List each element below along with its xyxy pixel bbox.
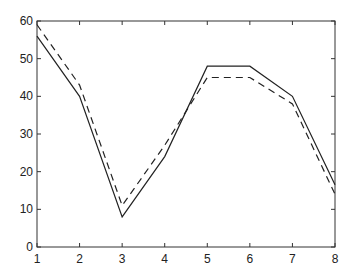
x-tick-label: 8 xyxy=(332,252,339,266)
x-tick-label: 7 xyxy=(289,252,296,266)
y-tick-label: 10 xyxy=(20,202,34,216)
y-tick-label: 0 xyxy=(26,240,33,254)
series-solid-line xyxy=(37,36,335,217)
x-tick-label: 5 xyxy=(204,252,211,266)
series-dashed-line xyxy=(37,25,335,206)
y-tick-label: 50 xyxy=(20,52,34,66)
series-layer xyxy=(37,25,335,217)
y-tick-label: 60 xyxy=(20,14,34,28)
plot-frame xyxy=(37,21,335,247)
x-tick-label: 2 xyxy=(76,252,83,266)
line-chart: 12345678 0102030405060 xyxy=(0,0,353,274)
x-tick-label: 3 xyxy=(119,252,126,266)
x-axis-ticks: 12345678 xyxy=(34,21,339,266)
plot-border xyxy=(37,21,335,247)
x-tick-label: 4 xyxy=(161,252,168,266)
x-tick-label: 6 xyxy=(247,252,254,266)
x-tick-label: 1 xyxy=(34,252,41,266)
y-tick-label: 20 xyxy=(20,165,34,179)
y-tick-label: 40 xyxy=(20,89,34,103)
y-tick-label: 30 xyxy=(20,127,34,141)
y-axis-ticks: 0102030405060 xyxy=(20,14,335,254)
